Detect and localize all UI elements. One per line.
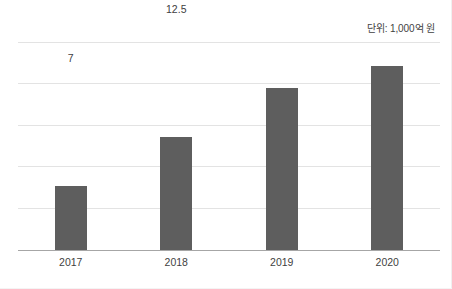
bar[interactable] — [160, 137, 192, 250]
bar-group-2020: 20 — [335, 0, 441, 251]
bar[interactable] — [266, 88, 298, 250]
x-axis-label-2018: 2018 — [124, 256, 230, 268]
bar-value-label: 12.5 — [166, 3, 186, 15]
x-axis-label-2020: 2020 — [335, 256, 441, 268]
bar-group-2017: 7 — [18, 0, 124, 251]
bar-group-2019: 18 — [229, 0, 335, 251]
bar-chart: 단위: 1,000억 원 7 12.5 18 20 2017 2018 2019 — [0, 0, 452, 289]
bar-value-label: 7 — [68, 52, 74, 64]
x-axis-label-2019: 2019 — [229, 256, 335, 268]
bar[interactable] — [55, 186, 87, 250]
x-axis-label-2017: 2017 — [18, 256, 124, 268]
bar[interactable] — [371, 66, 403, 250]
bar-group-2018: 12.5 — [124, 0, 230, 251]
bars-layer: 7 12.5 18 20 — [18, 0, 440, 251]
x-axis-labels: 2017 2018 2019 2020 — [18, 256, 440, 276]
